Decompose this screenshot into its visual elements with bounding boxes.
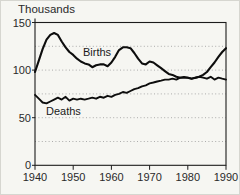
x-tick-label-1960: 1960 <box>94 171 128 183</box>
deaths-line <box>35 77 226 104</box>
deaths-series-label: Deaths <box>46 105 81 117</box>
births-deaths-chart <box>1 1 240 195</box>
x-tick-label-1940: 1940 <box>18 171 52 183</box>
y-axis-title: Thousands <box>18 3 75 16</box>
births-deaths-figure: Thousands 050100150 19401950196019701980… <box>0 0 240 195</box>
y-tick-label-100: 100 <box>5 64 31 76</box>
births-line <box>35 33 226 79</box>
y-tick-label-0: 0 <box>5 159 31 171</box>
x-tick-label-1990: 1990 <box>209 171 240 183</box>
x-tick-label-1950: 1950 <box>56 171 90 183</box>
births-series-label: Births <box>83 46 111 58</box>
y-tick-label-50: 50 <box>5 112 31 124</box>
y-tick-label-150: 150 <box>5 17 31 29</box>
x-tick-label-1980: 1980 <box>171 171 205 183</box>
x-tick-label-1970: 1970 <box>133 171 167 183</box>
